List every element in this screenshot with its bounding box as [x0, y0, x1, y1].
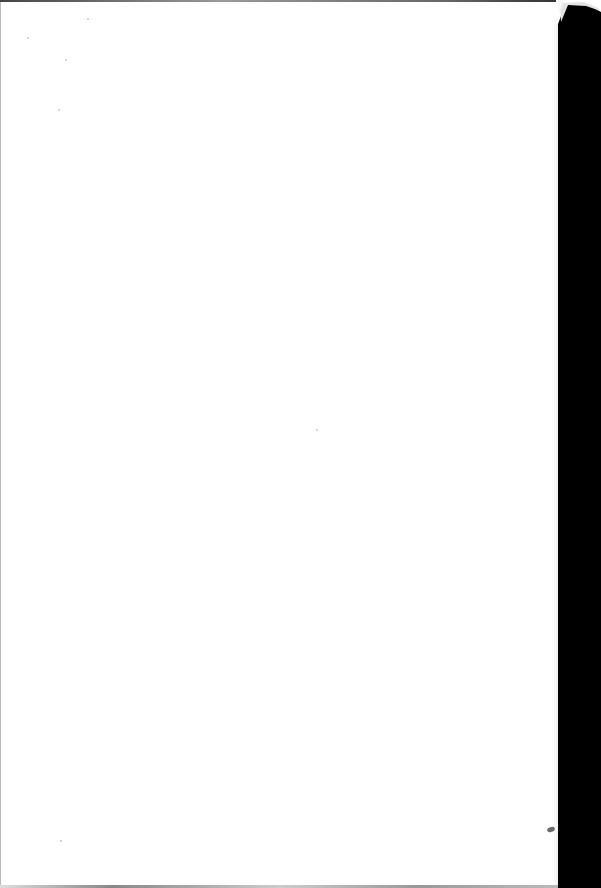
scanned-document [0, 0, 601, 888]
top-edge-shadow [0, 0, 558, 2]
folded-corner [556, 0, 601, 24]
dust-speck [65, 59, 67, 61]
blank-page [0, 0, 558, 888]
dust-speck [316, 429, 318, 431]
dust-speck [27, 37, 29, 39]
right-page-edge [552, 20, 558, 888]
dust-speck [60, 840, 62, 842]
dust-speck [58, 109, 60, 111]
dust-speck [87, 18, 89, 20]
